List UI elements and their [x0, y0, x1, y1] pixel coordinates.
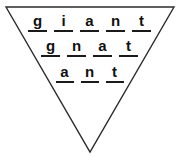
word-row-giant: g i a n t — [0, 13, 179, 32]
letter-slot: a — [52, 64, 77, 83]
letter-glyph: t — [126, 38, 131, 54]
letter-underline — [93, 55, 112, 57]
letter-slot: n — [64, 38, 90, 57]
letter-underline — [119, 55, 138, 57]
letter-underline — [132, 30, 151, 32]
letter-slot: n — [77, 64, 102, 83]
letter-slot: i — [51, 13, 77, 32]
letter-underline — [106, 30, 125, 32]
letter-glyph: n — [72, 38, 81, 54]
letter-slot: a — [90, 38, 116, 57]
letter-glyph: i — [61, 13, 65, 29]
word-row-ant: a n t — [0, 64, 179, 83]
word-rows-container: g i a n t g — [0, 0, 179, 157]
letter-glyph: n — [111, 13, 120, 29]
word-row-gnat: g n a t — [0, 38, 179, 57]
letter-underline — [28, 30, 47, 32]
letter-glyph: a — [85, 13, 93, 29]
letter-slot: a — [77, 13, 103, 32]
letter-slot: t — [129, 13, 155, 32]
letter-underline — [106, 81, 124, 83]
letter-slot: n — [103, 13, 129, 32]
letter-underline — [80, 30, 99, 32]
letter-slot: g — [25, 13, 51, 32]
letter-glyph: a — [60, 64, 68, 80]
letter-underline — [67, 55, 86, 57]
word-ladder-figure: g i a n t g — [0, 0, 179, 157]
letter-glyph: t — [139, 13, 144, 29]
letter-underline — [81, 81, 99, 83]
letter-slot: t — [102, 64, 127, 83]
letter-glyph: n — [85, 64, 94, 80]
letter-glyph: a — [98, 38, 106, 54]
letter-underline — [54, 30, 73, 32]
letter-glyph: g — [33, 13, 42, 29]
letter-underline — [56, 81, 74, 83]
letter-slot: t — [116, 38, 142, 57]
letter-underline — [41, 55, 60, 57]
letter-slot: g — [38, 38, 64, 57]
letter-glyph: t — [112, 64, 117, 80]
letter-glyph: g — [46, 38, 55, 54]
